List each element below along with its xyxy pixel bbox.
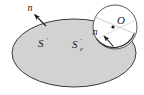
figure-container: n n O S ′ S ′ ε xyxy=(0,0,144,95)
inner-normal-label: n xyxy=(93,26,98,37)
point-O-marker xyxy=(111,25,114,28)
point-O-label: O xyxy=(117,14,125,26)
surface-outer-letter: S xyxy=(38,37,44,49)
surface-normal-diagram: n n O S ′ S ′ ε xyxy=(0,0,144,95)
outer-normal-label: n xyxy=(28,2,33,13)
surface-inner-letter: S xyxy=(72,38,78,50)
surface-inner-subscript: ε xyxy=(80,45,83,53)
